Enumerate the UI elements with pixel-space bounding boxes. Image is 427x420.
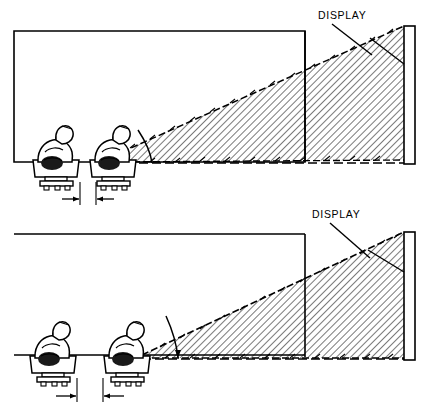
lower-display-label-group: DISPLAY xyxy=(312,208,370,258)
upper-operator-left xyxy=(33,126,79,190)
lower-panel: DISPLAY xyxy=(14,208,415,402)
upper-panel: DISPLAY xyxy=(14,9,415,205)
upper-display-label: DISPLAY xyxy=(318,9,366,21)
lower-operator-right xyxy=(104,322,150,386)
upper-display-label-group: DISPLAY xyxy=(318,9,372,55)
lower-operator-left xyxy=(30,322,76,386)
upper-operator-right xyxy=(90,126,136,190)
lower-display-label: DISPLAY xyxy=(312,208,360,220)
diagram-canvas: DISPLAY xyxy=(0,0,427,420)
lower-view-cone xyxy=(142,232,404,358)
technical-diagram: DISPLAY xyxy=(0,0,427,420)
